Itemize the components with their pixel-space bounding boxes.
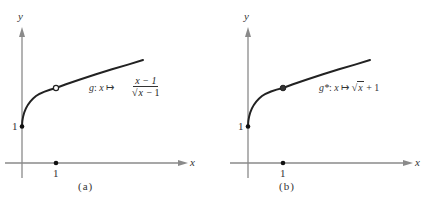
function-label-g: g: x ↦ xyxy=(89,82,114,93)
panel-a: y x 1 1 g: x ↦ x − 1 √x − 1 (a) xyxy=(0,0,215,205)
y-intercept-dot xyxy=(246,124,251,129)
filled-point xyxy=(280,85,286,91)
fraction: x − 1 √x − 1 xyxy=(130,75,162,98)
fraction-numerator: x − 1 xyxy=(133,75,158,87)
graph-a xyxy=(0,0,215,205)
maps-to-arrow-icon: ↦ xyxy=(106,82,114,93)
sqrt-icon: √x xyxy=(132,87,144,98)
hole-open-circle xyxy=(53,85,58,90)
fraction-denominator: √x − 1 xyxy=(130,87,162,98)
function-sep: : xyxy=(94,82,97,93)
function-var: x xyxy=(99,82,103,93)
function-label-g-star: g*: x ↦ √x + 1 xyxy=(319,82,379,93)
sqrt-icon: √x xyxy=(352,82,364,93)
y-tick-label: 1 xyxy=(238,120,244,132)
caption-a: (a) xyxy=(78,180,93,192)
graph-b xyxy=(215,0,430,205)
function-name: g* xyxy=(319,82,329,93)
y-axis-arrow-icon xyxy=(19,27,25,37)
x-axis-label: x xyxy=(190,156,195,168)
x-tick-dot xyxy=(281,161,286,166)
curve-g xyxy=(22,60,143,126)
function-var: x xyxy=(334,82,338,93)
y-axis-arrow-icon xyxy=(245,27,251,37)
x-tick-dot xyxy=(54,161,59,166)
x-axis-arrow-icon xyxy=(178,160,188,166)
caption-b: (b) xyxy=(279,180,295,192)
function-sep: : xyxy=(329,82,332,93)
y-intercept-dot xyxy=(20,124,25,129)
x-tick-label: 1 xyxy=(280,167,286,179)
x-axis-arrow-icon xyxy=(403,160,413,166)
function-rest: + 1 xyxy=(364,82,380,93)
y-axis-label: y xyxy=(244,10,249,22)
x-axis-label: x xyxy=(415,156,420,168)
y-axis-label: y xyxy=(18,10,23,22)
y-tick-label: 1 xyxy=(12,120,18,132)
x-tick-label: 1 xyxy=(53,167,59,179)
maps-to-arrow-icon: ↦ xyxy=(341,82,349,93)
panel-b: y x 1 1 g*: x ↦ √x + 1 (b) xyxy=(215,0,430,205)
